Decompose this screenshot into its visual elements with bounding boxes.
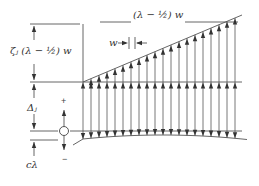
node-circle-icon	[60, 127, 69, 136]
upper-load-arrowhead-icon	[201, 32, 205, 38]
lower-load-arrowhead-icon	[225, 132, 229, 138]
upper-load-arrowhead-icon	[177, 42, 181, 48]
upper-load-arrowhead-icon	[217, 25, 221, 31]
zeta-height-label: ζⱼ (λ − ½) w	[10, 46, 72, 56]
lower-load-arrowhead-icon	[217, 131, 221, 137]
lower-load-arrowhead-icon	[121, 130, 125, 136]
zeta-dim-down-arrow-icon	[32, 74, 36, 80]
lower-load-arrowhead-icon	[145, 129, 149, 135]
baseline-arrowhead-icon	[201, 83, 205, 89]
plus-sign: +	[61, 97, 66, 106]
baseline-arrowhead-icon	[137, 83, 141, 89]
delta-dim-up-arrow-icon	[32, 84, 36, 90]
baseline-arrowhead-icon	[113, 83, 117, 89]
delta-label: Δⱼ	[27, 103, 37, 113]
upper-load-arrowhead-icon	[233, 18, 237, 24]
lower-load-arrowhead-icon	[233, 132, 237, 138]
upper-load-arrowhead-icon	[129, 62, 133, 68]
baseline-arrowhead-icon	[185, 83, 189, 89]
c-lambda-up-arrow-icon	[32, 142, 36, 148]
spacing-label: w	[109, 38, 118, 48]
upper-load-arrowhead-icon	[153, 52, 157, 58]
c-lambda-label: cλ	[26, 160, 38, 170]
baseline-arrowhead-icon	[177, 83, 181, 89]
baseline-arrowhead-icon	[145, 83, 149, 89]
lower-load-arrowhead-icon	[209, 130, 213, 136]
lower-load-arrowhead-icon	[89, 132, 93, 138]
upper-load-arrowhead-icon	[145, 56, 149, 62]
baseline-arrowhead-icon	[153, 83, 157, 89]
upper-load-arrowhead-icon	[137, 59, 141, 65]
upper-load-arrowhead-icon	[225, 22, 229, 28]
upper-load-arrowhead-icon	[161, 49, 165, 55]
lower-load-arrowhead-icon	[105, 131, 109, 137]
upper-load-arrowhead-icon	[193, 35, 197, 41]
lower-load-arrowhead-icon	[169, 129, 173, 135]
upper-load-arrowhead-icon	[105, 72, 109, 78]
load-distribution-diagram	[0, 0, 259, 186]
baseline-arrowhead-icon	[97, 83, 101, 89]
baseline-arrowhead-icon	[209, 83, 213, 89]
baseline-arrowhead-icon	[161, 83, 165, 89]
zeta-dim-up-arrow-icon	[32, 26, 36, 32]
upper-load-arrowhead-icon	[113, 69, 117, 75]
baseline-arrowhead-icon	[193, 83, 197, 89]
upper-load-arrowhead-icon	[97, 76, 101, 82]
lower-load-arrowhead-icon	[129, 130, 133, 136]
baseline-arrowhead-icon	[225, 83, 229, 89]
baseline-arrowhead-icon	[217, 83, 221, 89]
upper-load-arrowhead-icon	[121, 66, 125, 72]
lower-load-arrowhead-icon	[201, 130, 205, 136]
baseline-arrowhead-icon	[105, 83, 109, 89]
lower-load-arrowhead-icon	[137, 129, 141, 135]
baseline-arrowhead-icon	[233, 83, 237, 89]
lower-load-arrowhead-icon	[97, 132, 101, 138]
upper-load-arrowhead-icon	[169, 45, 173, 51]
arrowhead-left-icon	[136, 41, 142, 45]
lower-load-arrowhead-icon	[185, 129, 189, 135]
minus-arrow-icon	[62, 144, 66, 150]
lower-load-arrowhead-icon	[113, 130, 117, 136]
upper-load-arrowhead-icon	[185, 39, 189, 45]
baseline-arrowhead-icon	[81, 83, 85, 89]
lower-load-arrowhead-icon	[161, 129, 165, 135]
delta-dim-down-arrow-icon	[32, 123, 36, 129]
lower-load-arrowhead-icon	[177, 129, 181, 135]
lower-load-arrowhead-icon	[81, 133, 85, 139]
baseline-arrowhead-icon	[129, 83, 133, 89]
baseline-arrowhead-icon	[169, 83, 173, 89]
lower-load-arrowhead-icon	[193, 130, 197, 136]
lower-load-arrowhead-icon	[153, 129, 157, 135]
minus-sign: −	[62, 155, 67, 164]
arrowhead-right-icon	[122, 41, 128, 45]
baseline-arrowhead-icon	[121, 83, 125, 89]
top-span-label: (λ − ½) w	[133, 10, 183, 20]
plus-arrow-icon	[62, 110, 66, 116]
upper-load-arrowhead-icon	[209, 29, 213, 35]
